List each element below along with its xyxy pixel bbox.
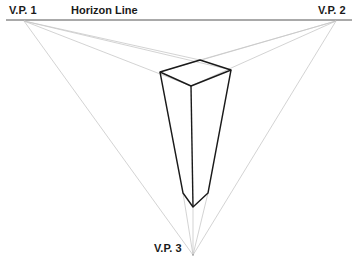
- vp1-label: V.P. 1: [9, 4, 37, 16]
- vp3-label: V.P. 3: [154, 242, 182, 254]
- vp3-point: [192, 254, 194, 256]
- horizon-line-label: Horizon Line: [71, 4, 138, 16]
- vp2-label: V.P. 2: [318, 4, 346, 16]
- box-edges: [160, 60, 231, 207]
- three-point-perspective-diagram: [0, 0, 358, 266]
- guide-lines: [24, 21, 336, 255]
